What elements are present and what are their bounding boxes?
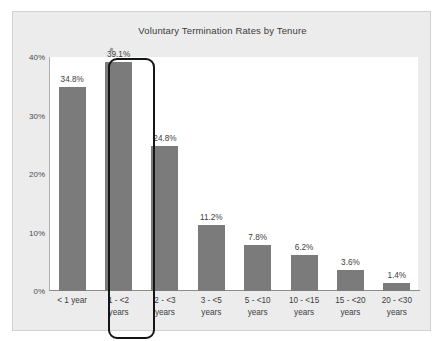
- bar-3[interactable]: 24.8%: [151, 57, 178, 291]
- bar-rect: [383, 283, 410, 291]
- bar-1[interactable]: 34.8%: [59, 57, 86, 291]
- bar-rect: [105, 62, 132, 291]
- y-axis-tick-10: 10%: [15, 228, 49, 237]
- category-label-2: 1 - <2years: [95, 295, 141, 318]
- bar-7[interactable]: 3.6%: [337, 57, 364, 291]
- y-axis-tick-30: 30%: [15, 111, 49, 120]
- bar-rect: [198, 225, 225, 291]
- x-axis-category-labels: < 1 year1 - <2years2 - <3years3 - <5year…: [49, 295, 420, 341]
- bar-rect: [59, 87, 86, 291]
- bar-rect: [337, 270, 364, 291]
- y-axis-tick-labels: 0%10%20%30%40%: [13, 12, 49, 341]
- bar-value-label: 24.8%: [153, 134, 176, 143]
- bar-rect: [151, 146, 178, 291]
- bar-series: 34.8%39.1%24.8%11.2%7.8%6.2%3.6%1.4%: [49, 57, 420, 291]
- category-label-1: < 1 year: [49, 295, 95, 307]
- category-label-5: 5 - <10years: [235, 295, 281, 318]
- category-label-4: 3 - <5years: [188, 295, 234, 318]
- category-label-6: 10 - <15years: [281, 295, 327, 318]
- chart-root: Voluntary Termination Rates by Tenure 0%…: [0, 0, 443, 341]
- bar-value-label: 39.1%: [107, 50, 130, 59]
- category-label-8: 20 - <30years: [374, 295, 420, 318]
- bar-2[interactable]: 39.1%: [105, 57, 132, 291]
- bar-value-label: 11.2%: [200, 213, 223, 222]
- y-axis-tick-0: 0%: [15, 287, 49, 296]
- category-label-3: 2 - <3years: [142, 295, 188, 318]
- bar-rect: [244, 245, 271, 291]
- bar-value-label: 6.2%: [295, 243, 314, 252]
- y-axis-tick-20: 20%: [15, 170, 49, 179]
- bar-rect: [291, 255, 318, 291]
- bar-6[interactable]: 6.2%: [291, 57, 318, 291]
- y-axis-tick-40: 40%: [15, 53, 49, 62]
- category-label-7: 15 - <20years: [327, 295, 373, 318]
- bar-5[interactable]: 7.8%: [244, 57, 271, 291]
- bar-8[interactable]: 1.4%: [383, 57, 410, 291]
- bar-value-label: 7.8%: [248, 233, 267, 242]
- bar-value-label: 1.4%: [387, 271, 406, 280]
- chart-title: Voluntary Termination Rates by Tenure: [13, 25, 432, 36]
- bar-value-label: 3.6%: [341, 258, 360, 267]
- chart-panel: Voluntary Termination Rates by Tenure 0%…: [12, 11, 431, 331]
- bar-4[interactable]: 11.2%: [198, 57, 225, 291]
- bar-value-label: 34.8%: [61, 75, 84, 84]
